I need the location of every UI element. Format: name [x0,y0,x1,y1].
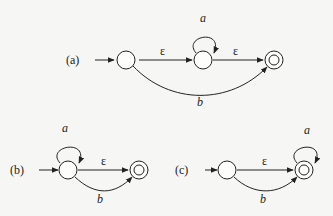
state-final-inner [299,165,309,175]
diagram-a-label: (a) [66,53,79,67]
eps-label-1: ε [160,44,165,58]
b-label: b [97,192,103,206]
diagram-a: (a) ε a ε b [66,11,283,109]
a-label: a [62,121,68,135]
transition-b [133,66,267,95]
a-label: a [304,123,310,137]
diagram-c: (c) ε b a [175,123,317,206]
diagram-b-label: (b) [10,163,24,177]
diagram-c-label: (c) [175,163,188,177]
eps-label-2: ε [233,44,238,58]
transition-b [234,177,297,191]
b-label: b [260,192,266,206]
state-start [218,161,236,179]
state-start [59,161,77,179]
eps-label: ε [262,154,267,168]
b-label: b [197,95,203,109]
diagram-b: (b) a ε b [10,121,148,206]
transition-b [75,177,132,191]
state-final-inner [134,165,144,175]
state-start [117,51,135,69]
a-label: a [200,11,206,25]
state-middle [194,51,212,69]
state-final-inner [269,55,279,65]
nfa-diagrams: (a) ε a ε b (b) a ε b (c) ε [0,0,333,216]
eps-label: ε [101,154,106,168]
